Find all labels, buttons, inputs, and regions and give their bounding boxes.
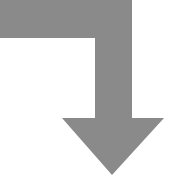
bent-arrow-down-icon bbox=[0, 0, 179, 180]
arrow-shape bbox=[0, 0, 164, 175]
icon-canvas bbox=[0, 0, 179, 180]
